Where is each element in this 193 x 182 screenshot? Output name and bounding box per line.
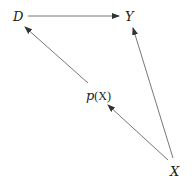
edge-x-to-y (133, 28, 173, 158)
node-y-label: Y (125, 9, 135, 24)
node-x-label: X (169, 164, 180, 179)
node-d-label: D (12, 9, 24, 24)
edge-px-to-d (25, 27, 88, 83)
node-px-label: p(X) (86, 88, 111, 103)
node-px-arg: (X) (94, 89, 111, 103)
causal-diagram: D Y p(X) X (0, 0, 193, 182)
